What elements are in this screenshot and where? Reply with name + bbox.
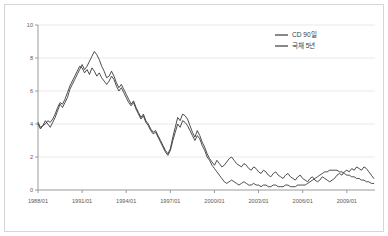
x-tick-label: 1991/01 [72,198,92,204]
x-tick-label: 2000/01 [204,198,224,204]
chart-figure: 0246810 1988/011991/011994/011997/012000… [0,0,388,236]
x-tick-label: 1988/01 [28,198,48,204]
y-tick-label: 8 [30,55,33,61]
legend-label-1: CD 90일 [292,30,317,38]
x-tick-label: 1997/01 [160,198,180,204]
data-series-group [38,51,374,186]
axes-group [38,25,375,190]
x-tick-label: 2009/01 [337,198,357,204]
y-tick-label: 0 [30,187,33,193]
x-tick-label: 2003/01 [248,198,268,204]
gridlines-group [38,25,375,157]
y-tick-label: 2 [30,154,33,160]
series-path-1 [38,51,374,181]
y-tick-label: 4 [30,121,33,127]
chart-legend: CD 90일국채 5년 [275,30,317,50]
x-tick-label: 2006/01 [293,198,313,204]
y-tick-label: 6 [30,88,33,94]
x-tick-label: 1994/01 [116,198,136,204]
series-path-2 [38,66,374,186]
line-chart: 0246810 1988/011991/011994/011997/012000… [0,0,388,236]
x-tick-group: 1988/011991/011994/011997/012000/012003/… [28,190,357,204]
legend-label-2: 국채 5년 [292,41,316,50]
y-tick-group: 0246810 [27,22,38,193]
y-tick-label: 10 [27,22,33,28]
